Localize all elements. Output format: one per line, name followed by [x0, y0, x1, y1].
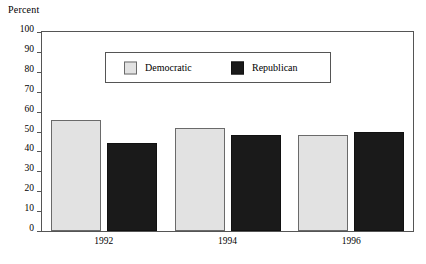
y-axis-tick-label: 70 — [25, 85, 35, 95]
legend-label: Republican — [252, 63, 298, 73]
y-axis-tick-mark — [37, 72, 41, 73]
bar-republican-1994 — [231, 135, 281, 231]
legend-item-democratic: Democratic — [124, 61, 192, 74]
y-axis-tick-mark — [37, 171, 41, 172]
y-axis-tick-mark — [37, 92, 41, 93]
bar-republican-1996 — [354, 132, 404, 232]
x-axis-tick-label: 1992 — [94, 236, 113, 246]
x-axis-tick-label: 1994 — [218, 236, 237, 246]
bar-republican-1992 — [107, 143, 157, 231]
bar-democratic-1996 — [298, 135, 348, 231]
bar-democratic-1994 — [175, 128, 225, 231]
y-axis-tick-label: 20 — [25, 184, 35, 194]
y-axis-tick-label: 10 — [25, 204, 35, 214]
y-axis-tick-mark — [37, 231, 41, 232]
y-axis: 0102030405060708090100 — [0, 0, 41, 264]
y-axis-tick-label: 90 — [25, 45, 35, 55]
legend-label: Democratic — [145, 63, 192, 73]
y-axis-tick-mark — [37, 52, 41, 53]
y-axis-tick-label: 50 — [25, 125, 35, 135]
legend-swatch-icon — [124, 61, 137, 74]
y-axis-tick-label: 0 — [29, 224, 34, 234]
bar-chart: Percent 0102030405060708090100 199219941… — [0, 0, 426, 264]
y-axis-tick-label: 100 — [20, 25, 34, 35]
y-axis-tick-label: 40 — [25, 144, 35, 154]
y-axis-tick-mark — [37, 151, 41, 152]
x-axis-labels: 199219941996 — [42, 236, 413, 258]
bar-democratic-1992 — [51, 120, 101, 231]
legend-item-republican: Republican — [231, 61, 298, 74]
y-axis-tick-mark — [37, 191, 41, 192]
x-axis-tick-label: 1996 — [342, 236, 361, 246]
y-axis-tick-mark — [37, 132, 41, 133]
y-axis-tick-mark — [37, 211, 41, 212]
y-axis-tick-mark — [37, 32, 41, 33]
legend-swatch-icon — [231, 61, 244, 74]
y-axis-tick-label: 60 — [25, 105, 35, 115]
y-axis-tick-label: 30 — [25, 164, 35, 174]
y-axis-tick-mark — [37, 112, 41, 113]
y-axis-tick-label: 80 — [25, 65, 35, 75]
chart-legend: DemocraticRepublican — [105, 52, 331, 83]
